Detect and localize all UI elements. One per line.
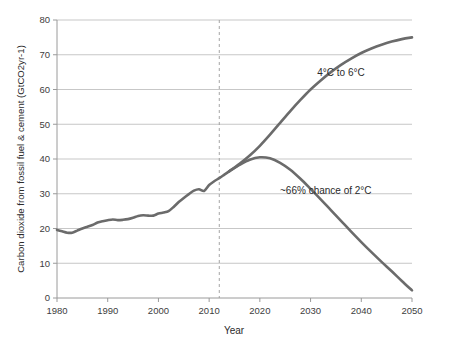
- series-line: [229, 157, 412, 290]
- x-tick-label: 2000: [148, 305, 169, 316]
- x-axis-ticks: 19801990200020102020203020402050: [46, 298, 422, 316]
- y-tick-label: 80: [39, 14, 50, 25]
- y-tick-label: 0: [45, 292, 50, 303]
- y-tick-label: 60: [39, 84, 50, 95]
- x-axis-title: Year: [224, 325, 245, 336]
- lower-scenario-label: ~66% chance of 2°C: [280, 185, 372, 196]
- x-tick-label: 1990: [97, 305, 118, 316]
- y-tick-label: 40: [39, 153, 50, 164]
- x-tick-label: 2030: [300, 305, 321, 316]
- gridlines-group: [57, 20, 412, 263]
- annotations-group: 4°C to 6°C~66% chance of 2°C: [280, 67, 372, 196]
- y-tick-label: 70: [39, 49, 50, 60]
- x-tick-label: 1980: [46, 305, 67, 316]
- upper-scenario-label: 4°C to 6°C: [317, 67, 364, 78]
- y-tick-label: 10: [39, 258, 50, 269]
- x-tick-label: 2020: [249, 305, 270, 316]
- chart-figure: 01020304050607080 1980199020002010202020…: [0, 0, 454, 357]
- x-tick-label: 2010: [199, 305, 220, 316]
- x-tick-label: 2040: [351, 305, 372, 316]
- y-tick-label: 50: [39, 119, 50, 130]
- series-line: [229, 37, 412, 171]
- y-tick-label: 30: [39, 188, 50, 199]
- y-axis-title: Carbon dioxide from fossil fuel & cement…: [15, 45, 26, 273]
- emissions-line-chart: 01020304050607080 1980199020002010202020…: [0, 0, 454, 357]
- y-axis-ticks: 01020304050607080: [39, 14, 57, 303]
- y-tick-label: 20: [39, 223, 50, 234]
- x-tick-label: 2050: [401, 305, 422, 316]
- series-line: [57, 171, 229, 233]
